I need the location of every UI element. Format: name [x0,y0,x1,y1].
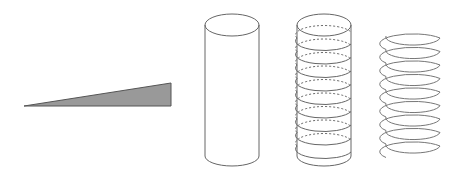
cylinder [205,14,259,166]
wrapped-cylinder [296,14,351,166]
wedge-shape [24,83,171,106]
diagram-canvas [0,0,468,179]
helix [380,34,440,158]
